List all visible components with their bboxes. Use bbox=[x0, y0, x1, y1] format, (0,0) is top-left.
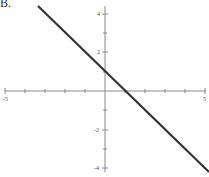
y-axis bbox=[102, 6, 108, 172]
y-tick-label-4: 4 bbox=[97, 11, 100, 17]
y-tick-label-2: 2 bbox=[97, 49, 100, 55]
y-tick-label-neg2: -2 bbox=[94, 127, 99, 133]
x-tick-label-min: -5 bbox=[3, 96, 8, 102]
plotted-line bbox=[38, 6, 209, 172]
y-tick-label-neg4: -4 bbox=[94, 165, 99, 171]
x-tick-label-max: 5 bbox=[203, 96, 206, 102]
line-graph: -5 5 4 2 -2 -4 bbox=[0, 0, 209, 177]
